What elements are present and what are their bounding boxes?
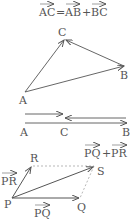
arrow-b-to-c: [66, 40, 124, 66]
collinear-point-a-label: A: [19, 126, 29, 139]
svg-text:+: +: [102, 147, 111, 160]
point-c-label: C: [58, 26, 66, 39]
collinear-figure: A C B: [19, 114, 130, 139]
arrow-p-to-s: [12, 167, 93, 198]
vector-bc-label: BC: [91, 6, 108, 19]
point-q-label: Q: [77, 201, 86, 214]
parallelogram-figure: R S P Q PR PQ PQ + PR: [1, 145, 127, 220]
point-s-label: S: [97, 165, 105, 178]
svg-text:PQ: PQ: [84, 147, 100, 160]
point-a-label: A: [18, 94, 28, 107]
vector-ab-label: AB: [64, 6, 81, 19]
sum-label-pq-plus-pr: PQ + PR: [84, 145, 127, 160]
arrow-a-to-c: [25, 40, 64, 92]
svg-text:+: +: [82, 6, 91, 19]
triangle-figure: C A B: [18, 26, 128, 107]
point-r-label: R: [30, 152, 39, 165]
vector-pq-label: PQ: [34, 207, 50, 220]
collinear-point-c-label: C: [60, 126, 68, 139]
vector-ac-label: AC: [38, 6, 55, 19]
formula-triangle-rule: AC = AB + BC: [38, 4, 108, 19]
arrow-a-to-b: [25, 66, 124, 92]
point-b-label: B: [120, 69, 128, 82]
svg-text:=: =: [56, 6, 65, 19]
vector-addition-diagram: AC = AB + BC C A B A C B R S P Q PR: [0, 0, 137, 224]
svg-text:PR: PR: [111, 147, 127, 160]
point-p-label: P: [4, 198, 12, 211]
vector-pr-label: PR: [1, 175, 17, 188]
collinear-point-b-label: B: [122, 126, 130, 139]
